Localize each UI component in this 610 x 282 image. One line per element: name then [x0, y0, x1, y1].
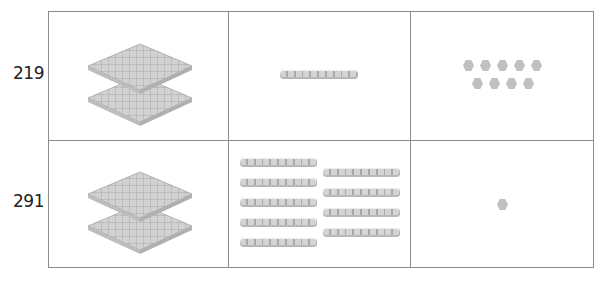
- ten-rod-icon: [240, 198, 317, 207]
- row-1-hundreds-flats: [80, 22, 200, 136]
- row-2-hundreds-flats: [80, 150, 200, 264]
- ten-rod-icon: [323, 228, 400, 237]
- ten-rod-icon: [240, 178, 317, 187]
- row-2-number: 291: [0, 191, 44, 211]
- row-1-ten-rod: [280, 70, 358, 79]
- hundred-flat-icon: [80, 22, 200, 132]
- ten-rod-icon: [240, 238, 317, 247]
- ten-rod-icon: [240, 158, 317, 167]
- ten-rod-icon: [323, 188, 400, 197]
- row-divider: [49, 140, 593, 141]
- ten-rod-icon: [240, 218, 317, 227]
- ten-rod-icon: [323, 168, 400, 177]
- column-divider-1: [228, 12, 229, 267]
- column-divider-2: [410, 12, 411, 267]
- row-1-number: 219: [0, 63, 44, 83]
- ten-rod-icon: [323, 208, 400, 217]
- hundred-flat-icon: [80, 150, 200, 260]
